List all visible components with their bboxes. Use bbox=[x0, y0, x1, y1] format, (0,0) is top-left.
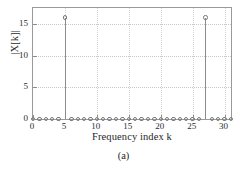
y-axis-tick-label: 5 bbox=[24, 81, 29, 91]
y-axis-tick-label: 15 bbox=[19, 18, 28, 28]
data-point-marker bbox=[197, 117, 201, 121]
data-point-marker bbox=[101, 117, 105, 121]
x-axis-tick bbox=[193, 115, 194, 119]
x-axis-tick bbox=[97, 115, 98, 119]
data-point-marker bbox=[229, 117, 233, 121]
gridline-horizontal bbox=[33, 56, 231, 57]
y-axis-label: |X[k]| bbox=[9, 3, 20, 83]
data-point-marker bbox=[44, 117, 48, 121]
data-point-marker bbox=[82, 117, 86, 121]
data-point-marker bbox=[139, 117, 143, 121]
data-point-marker bbox=[76, 117, 80, 121]
plot-box bbox=[32, 7, 232, 120]
data-point-marker bbox=[56, 117, 60, 121]
x-axis-tick bbox=[65, 115, 66, 119]
gridline-vertical bbox=[129, 8, 130, 119]
y-axis-tick bbox=[33, 119, 37, 120]
stem-line bbox=[205, 18, 206, 119]
data-point-marker bbox=[178, 117, 182, 121]
data-point-marker bbox=[114, 117, 118, 121]
x-axis-tick-label: 15 bbox=[123, 121, 132, 131]
data-point-marker bbox=[37, 117, 41, 121]
data-point-marker bbox=[146, 117, 150, 121]
x-axis-tick bbox=[129, 115, 130, 119]
x-axis-label: Frequency index k bbox=[32, 131, 232, 142]
x-axis-tick-label: 0 bbox=[30, 121, 35, 131]
y-axis-tick bbox=[33, 56, 37, 57]
data-point-marker bbox=[107, 117, 111, 121]
x-axis-tick bbox=[161, 115, 162, 119]
figure-caption: (a) bbox=[0, 150, 247, 161]
gridline-horizontal bbox=[33, 24, 231, 25]
data-point-marker bbox=[203, 15, 207, 19]
data-point-marker bbox=[210, 117, 214, 121]
gridline-vertical bbox=[193, 8, 194, 119]
figure-panel: |X[k]| Frequency index k (a) 05101520253… bbox=[0, 0, 247, 173]
y-axis-tick-label: 0 bbox=[24, 113, 29, 123]
data-point-marker bbox=[165, 117, 169, 121]
gridline-vertical bbox=[161, 8, 162, 119]
x-axis-tick bbox=[225, 115, 226, 119]
x-axis-tick-label: 5 bbox=[62, 121, 67, 131]
x-axis-tick-label: 30 bbox=[219, 121, 228, 131]
gridline-vertical bbox=[225, 8, 226, 119]
y-axis-tick-label: 10 bbox=[19, 50, 28, 60]
data-point-marker bbox=[171, 117, 175, 121]
data-point-marker bbox=[50, 117, 54, 121]
y-axis-tick bbox=[33, 24, 37, 25]
stem-line bbox=[65, 18, 66, 119]
x-axis-tick-label: 20 bbox=[155, 121, 164, 131]
plot-area bbox=[33, 8, 231, 119]
gridline-vertical bbox=[97, 8, 98, 119]
x-axis-tick-label: 10 bbox=[91, 121, 100, 131]
y-axis-tick bbox=[33, 87, 37, 88]
data-point-marker bbox=[69, 117, 73, 121]
data-point-marker bbox=[133, 117, 137, 121]
x-axis-tick-label: 25 bbox=[187, 121, 196, 131]
data-point-marker bbox=[63, 15, 67, 19]
gridline-horizontal bbox=[33, 87, 231, 88]
